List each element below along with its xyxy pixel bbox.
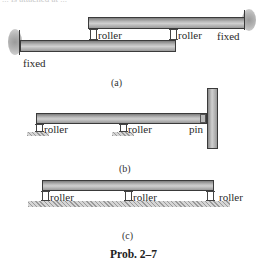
roller-support-icon [90,29,97,40]
label-fixed: fixed [217,31,240,42]
label-roller: roller [133,192,157,203]
label-roller: roller [98,30,122,41]
caption-a: (a) [111,78,122,88]
beam-upper [88,17,245,29]
label-fixed: fixed [23,58,46,69]
label-pin: pin [189,124,203,135]
roller-support-icon [36,124,43,132]
roller-support-icon [207,191,214,201]
label-roller: roller [50,192,74,203]
beam-lower [20,40,176,52]
label-roller: roller [219,192,243,203]
roller-support-icon [120,124,127,132]
beam-c [42,180,214,191]
problem-title: Prob. 2–7 [110,248,157,260]
caption-c: (c) [122,231,133,241]
label-roller: roller [178,30,202,41]
caption-b: (b) [119,164,131,174]
pin-connection-icon [200,114,206,123]
label-roller: roller [128,124,152,135]
column [207,88,218,149]
cut-off-text: ... is attached at ... [2,0,67,4]
roller-support-icon [125,191,132,201]
label-roller: roller [44,124,68,135]
roller-support-icon [170,29,177,40]
roller-support-icon [42,191,49,201]
